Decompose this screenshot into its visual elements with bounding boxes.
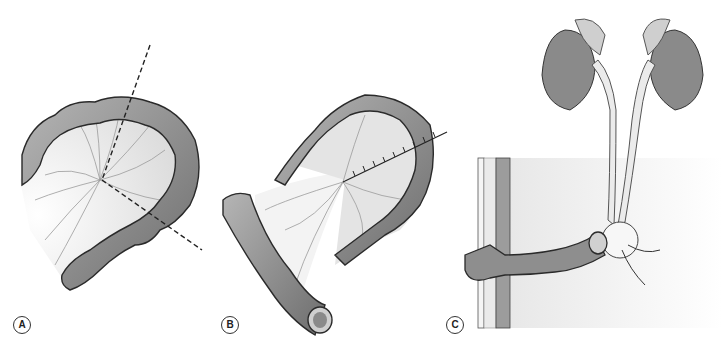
colon-conduit-illustration [460, 0, 722, 347]
panel-b: B [215, 0, 460, 347]
panel-c: C [460, 0, 722, 347]
panel-a: A [0, 0, 215, 347]
panel-label-c: C [446, 316, 464, 334]
colon-mesentery-illustration [0, 0, 215, 347]
panel-label-b: B [221, 316, 239, 334]
panel-label-a: A [13, 316, 31, 334]
sutured-colon-illustration [215, 0, 460, 347]
